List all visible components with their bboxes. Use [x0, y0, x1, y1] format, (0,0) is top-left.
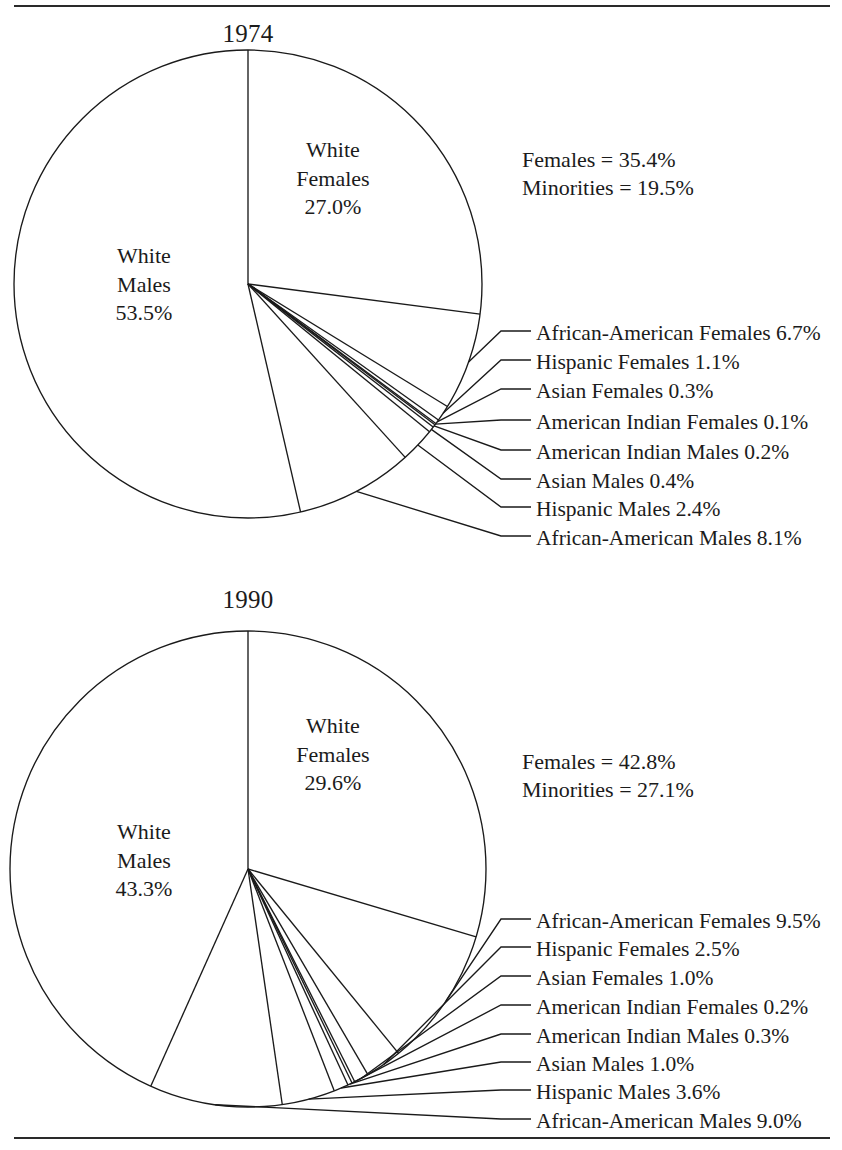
wedge-label-line1: White — [253, 712, 413, 741]
wedge-label-line2: Males — [64, 271, 224, 300]
leader-label: African-American Males 8.1% — [536, 528, 802, 550]
wedge-label-line2: Males — [64, 847, 224, 876]
summary-minorities-1974: Minorities = 19.5% — [522, 174, 694, 202]
leader-line — [469, 331, 531, 362]
leader-line — [309, 1090, 531, 1099]
leader-line — [341, 1062, 531, 1088]
pie-sector-divider — [248, 869, 348, 1085]
summary-females-1990: Females = 42.8% — [522, 748, 694, 776]
leader-line — [353, 1005, 531, 1082]
leader-line — [435, 420, 531, 424]
leader-label: American Indian Females 0.2% — [536, 997, 808, 1019]
wedge-label-line1: White — [64, 242, 224, 271]
wedge-label-white-males-1974: White Males 53.5% — [64, 242, 224, 328]
pie-sector-divider — [248, 869, 334, 1091]
leader-line — [350, 1034, 531, 1084]
leader-line — [443, 360, 531, 413]
wedge-label-line3: 27.0% — [253, 193, 413, 222]
wedge-label-line3: 53.5% — [64, 299, 224, 328]
summary-minorities-1990: Minorities = 27.1% — [522, 776, 694, 804]
wedge-label-line1: White — [64, 818, 224, 847]
leader-label: African-American Females 6.7% — [536, 323, 821, 345]
leader-label: Hispanic Males 2.4% — [536, 499, 721, 521]
leader-label: Hispanic Females 2.5% — [536, 939, 740, 961]
summary-block-1974: Females = 35.4% Minorities = 19.5% — [522, 146, 694, 202]
wedge-label-line2: Females — [253, 165, 413, 194]
leader-label: Asian Females 1.0% — [536, 968, 713, 990]
leader-label: American Indian Males 0.3% — [536, 1026, 789, 1048]
wedge-label-line3: 29.6% — [253, 769, 413, 798]
wedge-label-white-males-1990: White Males 43.3% — [64, 818, 224, 904]
summary-block-1990: Females = 42.8% Minorities = 27.1% — [522, 748, 694, 804]
pie-sector-divider — [248, 284, 429, 432]
page-canvas: 1974 White Females 27.0% White Males 53.… — [0, 0, 842, 1150]
leader-line — [215, 1105, 531, 1119]
leader-label: Asian Males 0.4% — [536, 471, 694, 493]
wedge-label-line2: Females — [253, 741, 413, 770]
leader-line — [418, 445, 531, 507]
leader-label: American Indian Males 0.2% — [536, 442, 789, 464]
leader-line — [356, 491, 531, 536]
leader-label: Hispanic Females 1.1% — [536, 352, 740, 374]
wedge-label-white-females-1990: White Females 29.6% — [253, 712, 413, 798]
leader-label: African-American Males 9.0% — [536, 1111, 802, 1133]
pie-sector-divider — [248, 284, 405, 457]
leader-line — [434, 426, 531, 450]
wedge-label-line1: White — [253, 136, 413, 165]
top-rule — [14, 5, 830, 7]
pie-sector-divider — [248, 284, 447, 406]
leader-label: Asian Females 0.3% — [536, 381, 713, 403]
leader-label: American Indian Females 0.1% — [536, 412, 808, 434]
leader-label: African-American Females 9.5% — [536, 911, 821, 933]
wedge-label-line3: 43.3% — [64, 875, 224, 904]
leader-label: Hispanic Males 3.6% — [536, 1082, 721, 1104]
leader-label: Asian Males 1.0% — [536, 1054, 694, 1076]
summary-females-1974: Females = 35.4% — [522, 146, 694, 174]
wedge-label-white-females-1974: White Females 27.0% — [253, 136, 413, 222]
leader-line — [431, 429, 531, 479]
